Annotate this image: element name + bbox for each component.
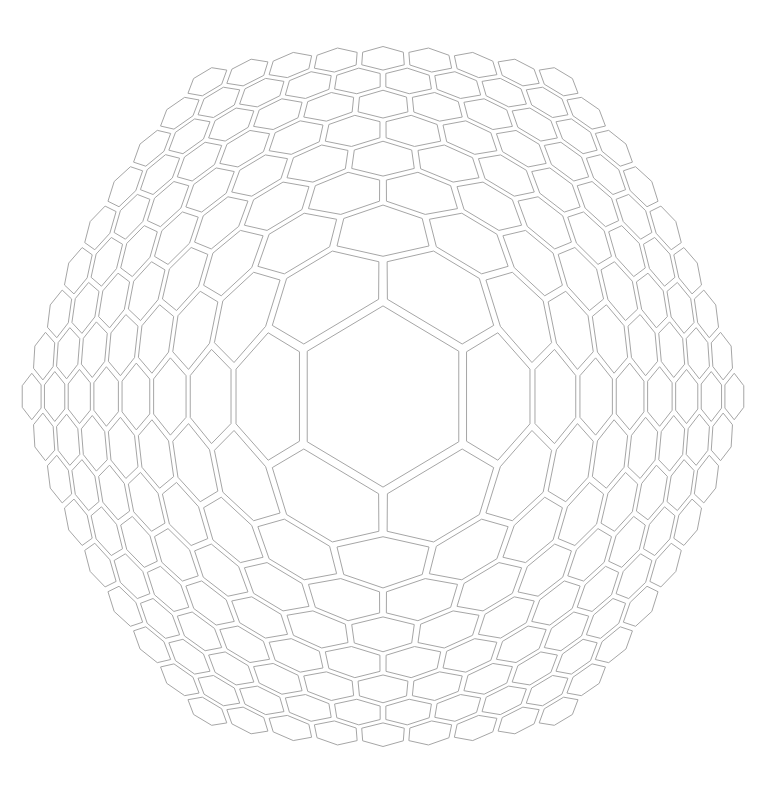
hexagon-cell [44,372,64,422]
hexagon-cell [467,333,530,460]
hexagon-cell [34,413,55,461]
hexagon-cell [81,322,107,378]
hexagon-cell [154,358,186,435]
hexagon-cell [412,93,462,122]
hexagon-cell [337,205,429,256]
hexagon-cell [386,115,441,146]
hexagon-cell [190,349,231,443]
hexagon-cell [659,322,685,378]
hexagon-cell [57,328,80,379]
hexagon-cell [94,367,118,427]
hex-cells-group [22,47,744,747]
hexagon-cell [412,672,462,701]
pattern-canvas [0,0,778,786]
hexagon-cell [314,48,357,72]
center-hexagon-cell [307,306,459,487]
hexagon-cell [659,416,685,472]
hexagon-cell [362,723,405,747]
hexagon-cell [81,416,107,472]
hexagon-cell [304,672,354,701]
hexagon-cell [335,699,381,725]
hexagon-cell [386,68,432,94]
hexagon-cell [362,47,405,71]
hexagon-cell [409,48,452,72]
hexagon-cell [711,332,732,380]
hexagon-cell [725,373,744,420]
hexagon-cell [122,363,150,430]
hexagon-cell [616,363,644,430]
hexagon-cell [701,372,721,422]
hexagon-cell [337,537,429,588]
hexagon-cell [352,141,415,176]
hexagon-cell [325,647,380,678]
hexagon-cell [352,617,415,652]
hexagon-cell [686,414,709,465]
hexagon-cell [648,367,672,427]
hexagon-fisheye-pattern [0,0,778,786]
hexagon-cell [686,328,709,379]
hexagon-cell [314,721,357,745]
hexagon-cell [386,647,441,678]
hexagon-cell [535,349,576,443]
hexagon-cell [236,333,299,460]
hexagon-cell [409,721,452,745]
hexagon-cell [34,332,55,380]
hexagon-cell [57,414,80,465]
hexagon-cell [676,369,698,423]
hexagon-cell [580,358,612,435]
hexagon-cell [22,373,41,420]
hexagon-cell [358,675,408,703]
hexagon-cell [358,90,408,118]
hexagon-cell [68,369,90,423]
hexagon-cell [335,68,381,94]
hexagon-cell [711,413,732,461]
hexagon-cell [304,93,354,122]
hexagon-cell [325,115,380,146]
hexagon-cell [386,699,432,725]
